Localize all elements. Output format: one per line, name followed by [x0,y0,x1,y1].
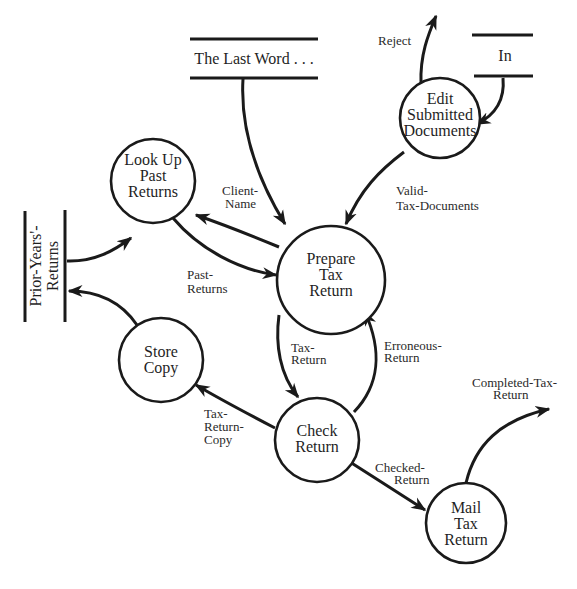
flow-store-to-prior-arrow[interactable] [69,291,137,325]
process-label-line: Check [297,422,338,439]
store-the-last-word[interactable]: The Last Word . . . [190,39,318,78]
process-label-line: Documents [404,122,477,139]
process-label-line: Return [309,282,353,299]
store-in[interactable]: In [472,35,533,76]
process-prepare-tax-return[interactable]: Prepare Tax Return [277,226,385,334]
process-label-line: Mail [451,499,482,516]
process-label-line: Edit [427,90,454,107]
process-label-line: Tax [319,266,343,283]
process-label-line: Returns [128,183,178,200]
flow-label-client-name-line-2: Name [225,196,256,211]
process-check-return[interactable]: Check Return [275,398,359,482]
store-label-line-2: Returns [44,241,61,291]
flow-label-reject: Reject [378,33,412,48]
flow-label-copy-line-3: Copy [204,432,233,447]
process-label-line: Copy [144,359,179,377]
flow-label-erroneous-line-2: Return [384,350,420,365]
process-label-line: Return [444,531,488,548]
process-look-up-past-returns[interactable]: Look Up Past Returns [111,139,195,223]
process-label-line: Submitted [407,106,473,123]
flow-prior-to-lookup-arrow[interactable] [67,238,131,261]
flow-label-completed-line-2: Return [493,387,529,402]
flow-label-past-returns-line-1: Past- [187,267,213,282]
store-label-line-1: Prior-Years'- [27,226,44,307]
flow-label-past-returns-line-2: Returns [187,281,227,296]
store-label: The Last Word . . . [194,50,313,67]
store-prior-years-returns[interactable]: Prior-Years'- Returns [25,210,65,322]
flow-reject-arrow[interactable] [421,16,436,83]
flow-label-checked-line-2: Return [394,472,430,487]
process-edit-submitted-documents[interactable]: Edit Submitted Documents [400,78,480,158]
flow-client-name-arrow[interactable] [196,215,279,247]
flow-label-tax-return-line-2: Return [291,352,327,367]
process-store-copy[interactable]: Store Copy [119,318,203,402]
store-label: In [498,47,511,64]
process-label-line: Tax [454,515,478,532]
process-label-line: Past [140,167,167,184]
flow-completed-tax-return-arrow[interactable] [466,409,549,483]
process-label-line: Return [295,438,339,455]
flow-label-valid-line-1: Valid- [396,183,428,198]
process-mail-tax-return[interactable]: Mail Tax Return [426,483,506,563]
process-label-line: Store [144,343,178,360]
flow-label-valid-line-2: Tax-Documents [396,198,479,213]
data-flow-diagram: The Last Word . . . In Prior-Years'- Ret… [0,0,577,589]
